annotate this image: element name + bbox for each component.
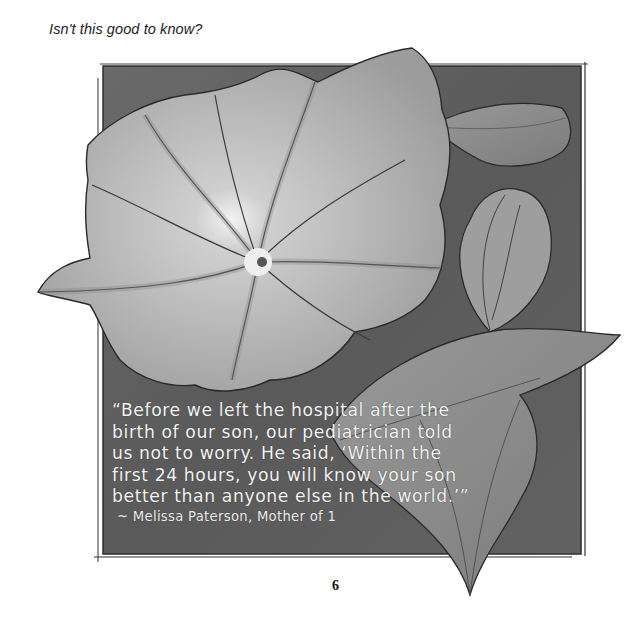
quote-line: birth of our son, our pediatrician told <box>112 422 582 444</box>
morning-glory-illustration <box>0 0 644 624</box>
quote-line: “Before we left the hospital after the <box>112 400 582 422</box>
quote-line: first 24 hours, you will know your son <box>112 465 582 487</box>
quote-line: us not to worry. He said, ‘Within the <box>112 443 582 465</box>
testimonial-quote: “Before we left the hospital after the b… <box>112 400 582 508</box>
quote-line: better than anyone else in the world.’” <box>112 486 582 508</box>
quote-attribution: ~ Melissa Paterson, Mother of 1 <box>117 509 336 524</box>
page-number: 6 <box>332 578 339 594</box>
